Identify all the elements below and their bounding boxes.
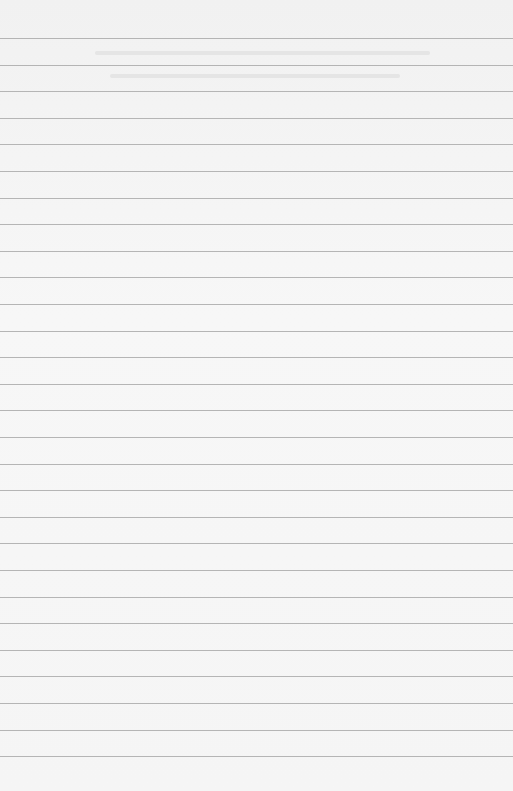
ruled-line: [0, 650, 513, 651]
show-through-text: [95, 51, 430, 55]
ruled-line: [0, 730, 513, 731]
ruled-line: [0, 384, 513, 385]
ruled-line: [0, 623, 513, 624]
ruled-line: [0, 144, 513, 145]
ruled-line: [0, 38, 513, 39]
ruled-line: [0, 304, 513, 305]
ruled-line: [0, 464, 513, 465]
ruled-line: [0, 597, 513, 598]
ruled-line: [0, 277, 513, 278]
ruled-line: [0, 91, 513, 92]
ruled-line: [0, 517, 513, 518]
ruled-line: [0, 171, 513, 172]
ruled-line: [0, 251, 513, 252]
ruled-line: [0, 703, 513, 704]
ruled-line: [0, 331, 513, 332]
show-through-text: [110, 74, 400, 78]
ruled-line: [0, 543, 513, 544]
ruled-line: [0, 357, 513, 358]
lined-paper-sheet: [0, 0, 513, 791]
ruled-line: [0, 756, 513, 757]
ruled-line: [0, 198, 513, 199]
ruled-line: [0, 410, 513, 411]
ruled-line: [0, 490, 513, 491]
ruled-line: [0, 224, 513, 225]
ruled-line: [0, 570, 513, 571]
ruled-line: [0, 676, 513, 677]
ruled-line: [0, 118, 513, 119]
ruled-line: [0, 437, 513, 438]
ruled-line: [0, 65, 513, 66]
